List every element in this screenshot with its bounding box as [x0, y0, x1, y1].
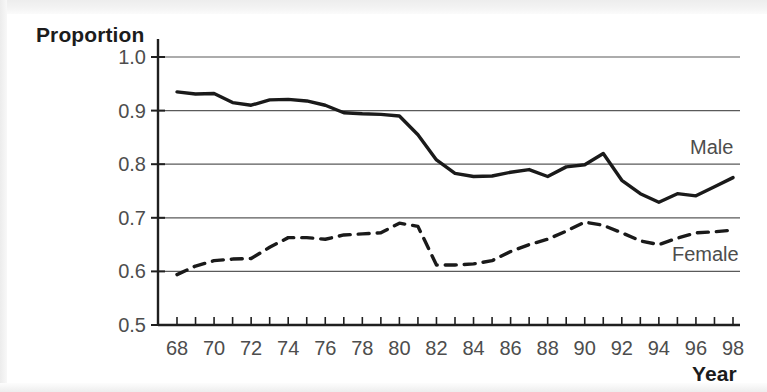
series-label-male: Male: [690, 136, 733, 159]
data-series-group: [177, 92, 733, 275]
x-tick-label: 84: [462, 337, 484, 360]
series-line-male: [177, 92, 733, 202]
y-tick-label: 0.9: [88, 99, 146, 122]
x-tick-label: 88: [537, 337, 559, 360]
x-tick-label: 92: [611, 337, 633, 360]
y-tick-label: 0.8: [88, 153, 146, 176]
x-tick-label: 90: [574, 337, 596, 360]
x-tick-label: 76: [314, 337, 336, 360]
x-tick-label: 74: [277, 337, 299, 360]
x-tick-label: 72: [240, 337, 262, 360]
series-line-female: [177, 222, 733, 275]
x-tick-label: 70: [203, 337, 225, 360]
x-tick-label: 86: [499, 337, 521, 360]
x-tick-label: 96: [685, 337, 707, 360]
gridlines: [158, 57, 740, 271]
y-tick-label: 0.6: [88, 260, 146, 283]
axis-ticks: [151, 57, 733, 325]
x-tick-label: 82: [425, 337, 447, 360]
y-tick-label: 1.0: [88, 46, 146, 69]
y-tick-label: 0.7: [88, 206, 146, 229]
x-tick-label: 68: [166, 337, 188, 360]
series-label-female: Female: [672, 243, 739, 266]
y-tick-label: 0.5: [88, 314, 146, 337]
x-tick-label: 94: [648, 337, 670, 360]
x-tick-label: 78: [351, 337, 373, 360]
axis-lines: [158, 39, 740, 325]
chart-figure: Proportion Year 1.00.90.80.70.60.5 68707…: [0, 0, 767, 392]
x-tick-label: 80: [388, 337, 410, 360]
x-tick-label: 98: [722, 337, 744, 360]
